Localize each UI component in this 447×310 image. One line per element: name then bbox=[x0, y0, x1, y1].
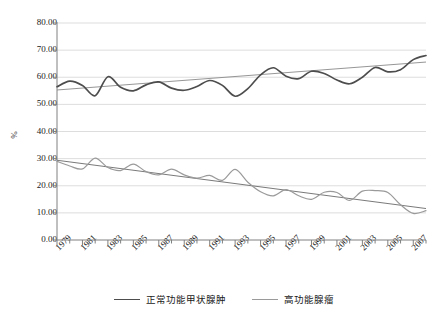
legend-label-series-2: 高功能腺瘤 bbox=[284, 292, 334, 306]
trendline-series-2 bbox=[57, 160, 426, 208]
legend-swatch-series-1 bbox=[114, 299, 140, 300]
trendline-series-1 bbox=[57, 62, 426, 90]
legend-item-series-2: 高功能腺瘤 bbox=[252, 292, 334, 306]
chart-container: % 0.0010.0020.0030.0040.0050.0060.0070.0… bbox=[0, 0, 447, 310]
chart-legend: 正常功能甲状腺肿 高功能腺瘤 bbox=[0, 292, 447, 306]
legend-label-series-1: 正常功能甲状腺肿 bbox=[146, 292, 226, 306]
plot-area bbox=[0, 0, 447, 310]
legend-item-series-1: 正常功能甲状腺肿 bbox=[114, 292, 226, 306]
legend-swatch-series-2 bbox=[252, 299, 278, 300]
